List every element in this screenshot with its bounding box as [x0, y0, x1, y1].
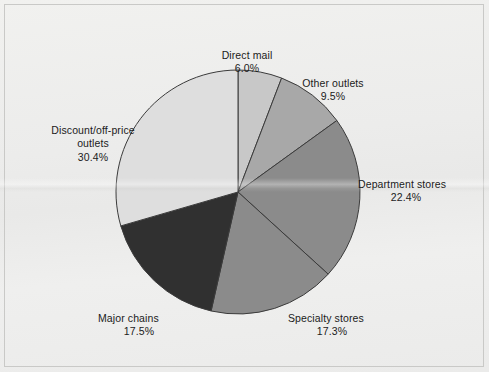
slice-label-major-chains: Major chains 17.5%: [98, 298, 218, 352]
slice-label-specialty-stores: Specialty stores 17.3%: [288, 298, 408, 352]
slice-value-specialty-stores: 17.3%: [288, 325, 376, 339]
slice-label-major-chains-text: Major chains: [98, 312, 159, 324]
slice-value-discount-off-price-outlets: 30.4%: [28, 151, 158, 165]
slice-value-department-stores: 22.4%: [358, 191, 454, 205]
slice-label-other-outlets-text: Other outlets: [302, 77, 363, 89]
slice-label-discount-off-price-outlets-text: Discount/off-price outlets: [51, 124, 134, 150]
slice-label-direct-mail-text: Direct mail: [222, 49, 273, 61]
slice-value-other-outlets: 9.5%: [278, 90, 388, 104]
slice-value-major-chains: 17.5%: [98, 325, 180, 339]
slice-label-discount-off-price-outlets: Discount/off-price outlets 30.4%: [28, 110, 158, 178]
pie-chart-figure: Direct mail 6.0% Other outlets 9.5% Depa…: [0, 0, 489, 372]
slice-label-department-stores-text: Department stores: [358, 178, 446, 190]
slice-label-department-stores: Department stores 22.4%: [358, 164, 486, 218]
slice-label-specialty-stores-text: Specialty stores: [288, 312, 364, 324]
slice-label-other-outlets: Other outlets 9.5%: [278, 63, 388, 117]
